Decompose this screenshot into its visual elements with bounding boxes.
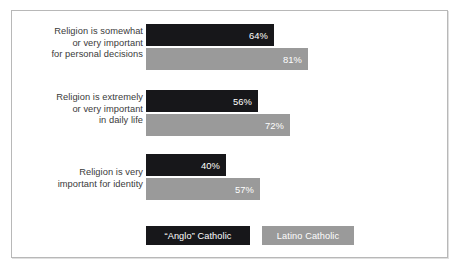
- category-label-line: Religion is very: [26, 167, 143, 179]
- bar-track-anglo: 40%: [146, 154, 346, 176]
- bar-anglo[interactable]: 56%: [146, 90, 258, 112]
- bar-value-label: 40%: [201, 160, 220, 171]
- bar-value-label: 56%: [233, 96, 252, 107]
- legend-item-latino-catholic[interactable]: Latino Catholic: [262, 226, 354, 245]
- bar-track-latino: 81%: [146, 48, 346, 70]
- bar-group-daily-life: Religion is extremely or very important …: [12, 90, 447, 137]
- bar-group-identity: Religion is very important for identity …: [12, 154, 447, 201]
- bar-track-latino: 72%: [146, 114, 346, 136]
- legend-item-anglo-catholic[interactable]: “Anglo” Catholic: [146, 226, 250, 245]
- category-label-line: or very important: [26, 104, 143, 116]
- bar-latino[interactable]: 57%: [146, 178, 260, 200]
- bar-track-latino: 57%: [146, 178, 346, 200]
- category-label-line: important for identity: [26, 179, 143, 191]
- category-label-line: or very important: [26, 38, 143, 50]
- legend-label: “Anglo” Catholic: [165, 231, 232, 241]
- category-label: Religion is extremely or very important …: [26, 92, 143, 127]
- category-label: Religion is very important for identity: [26, 167, 143, 190]
- category-label-line: Religion is extremely: [26, 92, 143, 104]
- bar-latino[interactable]: 81%: [146, 48, 308, 70]
- bar-value-label: 57%: [235, 184, 254, 195]
- category-label-line: Religion is somewhat: [26, 26, 143, 38]
- bar-anglo[interactable]: 40%: [146, 154, 226, 176]
- bar-value-label: 64%: [249, 30, 268, 41]
- category-label: Religion is somewhat or very important f…: [26, 26, 143, 61]
- bar-anglo[interactable]: 64%: [146, 24, 274, 46]
- bar-latino[interactable]: 72%: [146, 114, 290, 136]
- chart-frame: Religion is somewhat or very important f…: [11, 10, 448, 258]
- category-label-line: for personal decisions: [26, 49, 143, 61]
- bar-track-anglo: 56%: [146, 90, 346, 112]
- plot-area: Religion is somewhat or very important f…: [12, 11, 447, 257]
- category-label-line: in daily life: [26, 115, 143, 127]
- bar-group-personal-decisions: Religion is somewhat or very important f…: [12, 24, 447, 71]
- bar-value-label: 81%: [283, 54, 302, 65]
- bar-track-anglo: 64%: [146, 24, 346, 46]
- legend-label: Latino Catholic: [277, 231, 339, 241]
- bar-value-label: 72%: [265, 120, 284, 131]
